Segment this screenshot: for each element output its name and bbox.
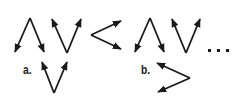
sequence-shape-4-caret-up-arrows-down-icon — [135, 18, 164, 52]
sequence-shape-1-caret-up-arrows-down-icon — [15, 18, 44, 52]
option-b-greater-than-arrows-left-icon[interactable] — [157, 63, 190, 92]
option-a-label: a. — [23, 63, 32, 77]
sequence-shape-3-less-than-arrows-right-icon — [91, 21, 121, 49]
sequence-shape-5-caret-down-arrows-up-icon — [172, 19, 200, 53]
puzzle-diagram — [0, 0, 236, 106]
ellipsis-icon — [208, 49, 229, 52]
option-a-caret-down-arrows-up-icon[interactable] — [42, 62, 67, 93]
sequence-shape-2-caret-down-arrows-up-icon — [52, 19, 81, 53]
option-b-label: b. — [141, 63, 150, 77]
